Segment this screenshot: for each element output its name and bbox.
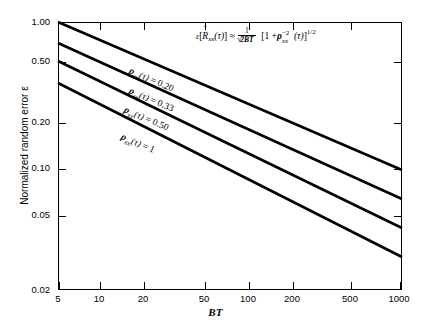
y-tick-label-0.02: 0.02 [0, 284, 50, 295]
y-axis-title: Normalized random error ε [19, 46, 30, 246]
x-tick-1000 [400, 282, 401, 289]
equation-exponent: 1/2 [307, 28, 316, 36]
x-tick-label-500: 500 [325, 293, 375, 304]
x-tick-20 [144, 282, 145, 289]
y-tick-right-0.50 [394, 62, 401, 63]
equation-bracket-open-2: [1 + [261, 31, 277, 41]
x-tick-10 [100, 282, 101, 289]
plot-area [58, 22, 402, 290]
equation-tau-2: (τ) [294, 31, 304, 41]
x-tick-top-20 [144, 23, 145, 30]
equation-bracket-close: ] [224, 31, 227, 41]
x-tick-label-1000: 1000 [374, 293, 424, 304]
y-tick-0.10 [59, 169, 66, 170]
y-tick-0.20 [59, 123, 66, 124]
equation-fraction: 1 2BT [238, 27, 255, 44]
equation-rho-indices: −2xx [282, 38, 294, 39]
x-tick-label-10: 10 [74, 293, 124, 304]
x-tick-label-20: 20 [118, 293, 168, 304]
x-tick-label-100: 100 [223, 293, 273, 304]
x-tick-label-200: 200 [267, 293, 317, 304]
x-tick-5 [59, 282, 60, 289]
equation-r-hat: ̂R [202, 31, 208, 41]
equation-approx: ≈ [230, 31, 235, 41]
y-tick-label-1.00: 1.00 [0, 16, 50, 27]
x-tick-top-500 [351, 23, 352, 30]
x-tick-200 [293, 282, 294, 289]
equation-annotation: ε[̂Rxx(τ)] ≈ 1 2BT [1 +ρ−2xx(τ)]1/2 [196, 28, 316, 45]
y-tick-0.50 [59, 62, 66, 63]
y-tick-0.05 [59, 216, 66, 217]
equation-tau: (τ) [214, 31, 224, 41]
x-tick-50 [205, 282, 206, 289]
y-tick-right-0.05 [394, 216, 401, 217]
x-tick-top-10 [100, 23, 101, 30]
x-tick-100 [249, 282, 250, 289]
x-tick-500 [351, 282, 352, 289]
y-tick-right-0.20 [394, 123, 401, 124]
chart-figure: 5 10 20 50 100 200 500 1000 1.00 0.50 0.… [0, 0, 431, 326]
x-axis-title: BT [0, 306, 431, 318]
equation-frac-denominator: 2BT [238, 35, 255, 44]
x-tick-label-50: 50 [179, 293, 229, 304]
y-tick-right-0.10 [394, 169, 401, 170]
